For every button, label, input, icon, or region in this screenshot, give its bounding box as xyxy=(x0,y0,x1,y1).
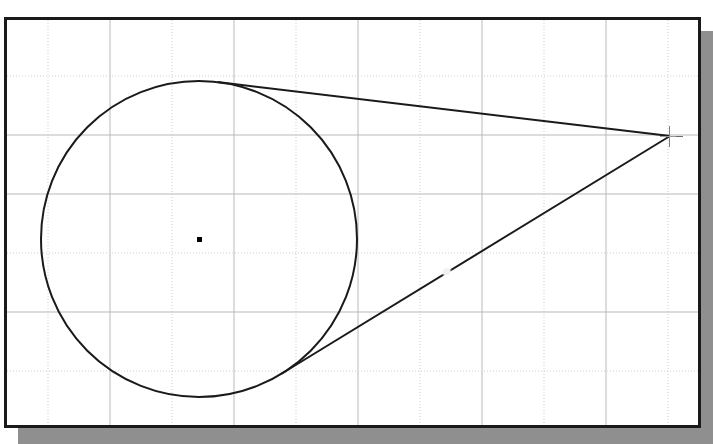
circle-center-marker[interactable] xyxy=(197,237,202,242)
geometry-layer[interactable] xyxy=(7,20,698,425)
drawing-window[interactable] xyxy=(4,17,701,428)
snap-point-marker[interactable] xyxy=(443,268,450,275)
lower-tangent-line[interactable] xyxy=(281,136,670,374)
screenshot-root xyxy=(0,0,713,444)
drawing-canvas[interactable] xyxy=(7,20,698,425)
upper-tangent-line[interactable] xyxy=(218,82,670,136)
